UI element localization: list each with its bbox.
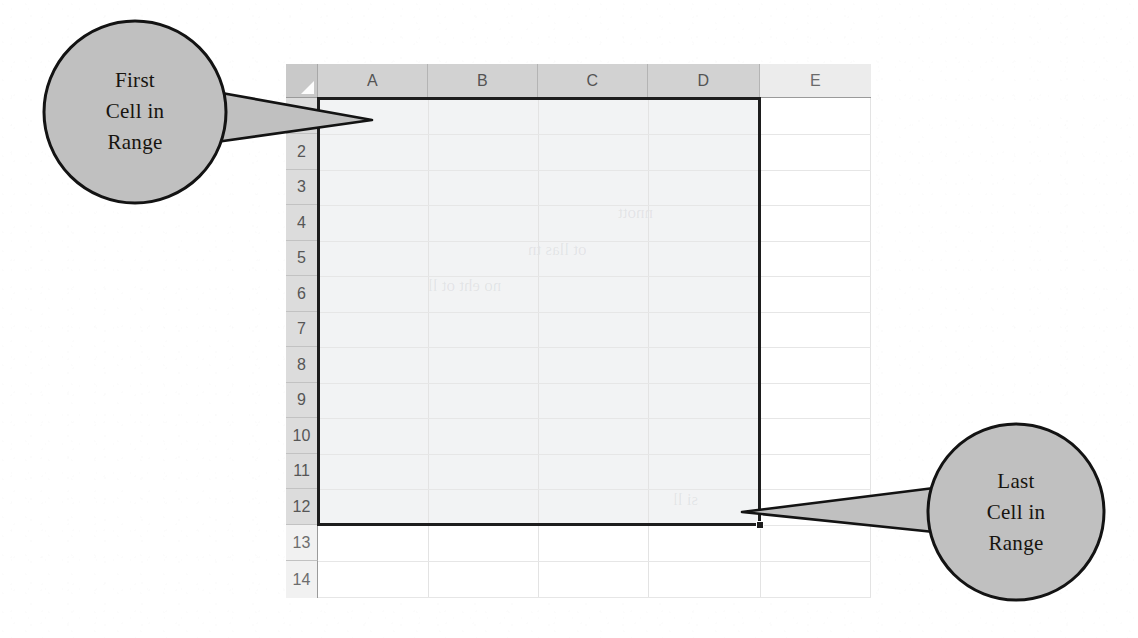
column-header-b[interactable]: B	[428, 64, 538, 98]
column-header-c[interactable]: C	[538, 64, 648, 98]
row-header-7[interactable]: 7	[286, 312, 318, 347]
callout-last-cell-shape	[720, 400, 1138, 638]
callout-first-cell-shape	[0, 0, 400, 230]
row-header-11[interactable]: 11	[286, 454, 318, 489]
row-header-12[interactable]: 12	[286, 489, 318, 525]
row-header-6[interactable]: 6	[286, 276, 318, 312]
row-header-10[interactable]: 10	[286, 418, 318, 454]
callout-last-cell: Last Cell in Range	[720, 400, 1138, 638]
callout-last-cell-tail	[742, 488, 934, 532]
column-header-d[interactable]: D	[648, 64, 760, 98]
column-header-e[interactable]: E	[760, 64, 871, 98]
figure-page: A B C D E 1 2 3 4 5 6 7 8 9 10 11 12 13 …	[0, 0, 1138, 638]
row-header-8[interactable]: 8	[286, 347, 318, 383]
callout-first-cell: First Cell in Range	[0, 0, 400, 230]
row-header-5[interactable]: 5	[286, 241, 318, 276]
row-header-13[interactable]: 13	[286, 525, 318, 561]
row-header-14[interactable]: 14	[286, 561, 318, 598]
callout-first-cell-tail	[216, 92, 372, 142]
callout-first-cell-bubble	[44, 21, 226, 203]
row-header-9[interactable]: 9	[286, 383, 318, 418]
callout-last-cell-bubble	[928, 424, 1104, 600]
